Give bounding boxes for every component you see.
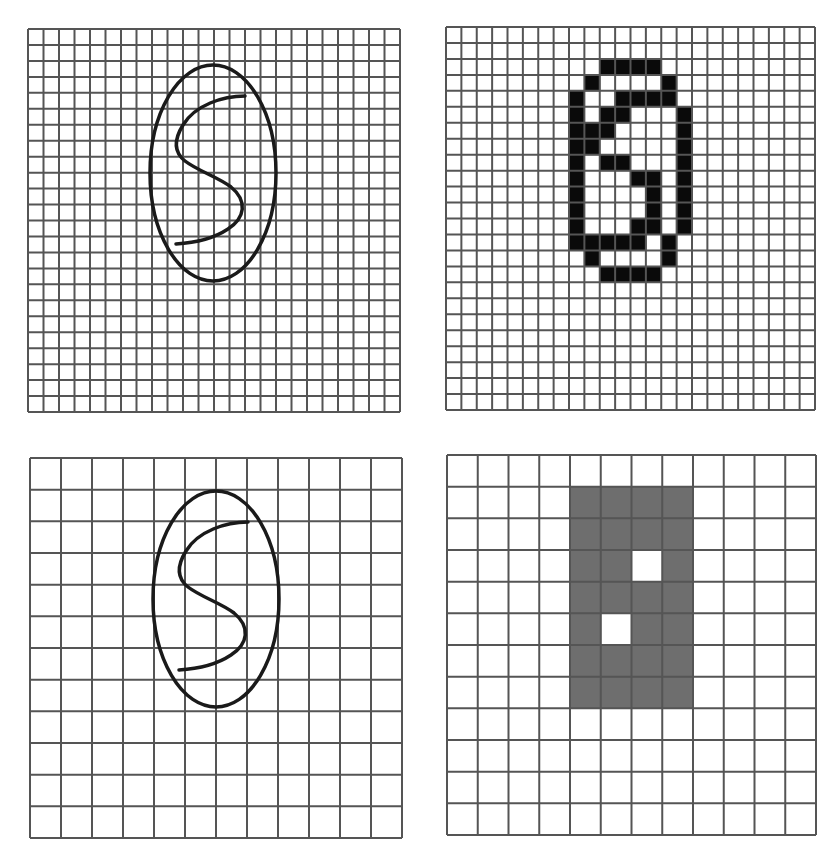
- filled-cell: [600, 155, 616, 171]
- filled-cell: [661, 234, 677, 250]
- filled-cell: [601, 550, 632, 582]
- coarse-grid-digitized-svg: [447, 455, 816, 835]
- filled-cell: [662, 677, 693, 709]
- filled-cell: [631, 219, 647, 235]
- filled-cell: [632, 645, 663, 677]
- filled-cell: [584, 123, 600, 139]
- filled-cell: [632, 677, 663, 709]
- filled-cell: [569, 187, 585, 203]
- filled-cell: [632, 613, 663, 645]
- filled-cell: [631, 59, 647, 75]
- filled-cell: [584, 139, 600, 155]
- filled-cell: [600, 59, 616, 75]
- filled-cell: [677, 155, 693, 171]
- fine-grid-digitized-svg: [446, 27, 815, 410]
- filled-cell: [677, 187, 693, 203]
- filled-cell: [631, 91, 647, 107]
- filled-cell: [662, 487, 693, 519]
- filled-cell: [569, 107, 585, 123]
- filled-cell: [646, 219, 662, 235]
- filled-cell: [631, 266, 647, 282]
- filled-cell: [662, 613, 693, 645]
- filled-cell: [615, 59, 631, 75]
- filled-cell: [662, 550, 693, 582]
- filled-cell: [646, 91, 662, 107]
- filled-cell: [615, 155, 631, 171]
- filled-cell: [569, 155, 585, 171]
- filled-cell: [661, 250, 677, 266]
- filled-cell: [569, 139, 585, 155]
- filled-cell: [677, 203, 693, 219]
- filled-cell: [600, 123, 616, 139]
- filled-cell: [631, 234, 647, 250]
- filled-cell: [677, 107, 693, 123]
- filled-cell: [584, 250, 600, 266]
- filled-cell: [584, 75, 600, 91]
- filled-cell: [677, 171, 693, 187]
- filled-cell: [677, 219, 693, 235]
- filled-cell: [632, 487, 663, 519]
- filled-cell: [661, 75, 677, 91]
- filled-cell: [600, 234, 616, 250]
- grid-lines: [28, 29, 400, 412]
- grid-lines: [446, 27, 815, 410]
- filled-cell: [569, 203, 585, 219]
- filled-cell: [662, 518, 693, 550]
- filled-cell: [601, 487, 632, 519]
- filled-cell: [646, 171, 662, 187]
- filled-cell: [601, 518, 632, 550]
- filled-cell: [600, 107, 616, 123]
- filled-cell: [569, 91, 585, 107]
- filled-cell: [631, 171, 647, 187]
- fine-grid-digitized-panel: [446, 27, 815, 410]
- coarse-grid-handwritten-s-svg: [30, 458, 402, 838]
- filled-cell: [570, 550, 601, 582]
- filled-cell: [570, 613, 601, 645]
- filled-cell: [646, 203, 662, 219]
- filled-cell: [584, 234, 600, 250]
- filled-cell: [646, 187, 662, 203]
- filled-cell: [677, 123, 693, 139]
- filled-cell: [662, 582, 693, 614]
- grid-lines: [30, 458, 402, 838]
- fine-grid-handwritten-s-panel: [28, 29, 400, 412]
- filled-cell: [662, 645, 693, 677]
- filled-cell: [570, 677, 601, 709]
- filled-cell: [615, 91, 631, 107]
- filled-cell: [600, 266, 616, 282]
- coarse-grid-digitized-panel: [447, 455, 816, 835]
- filled-cell: [569, 171, 585, 187]
- coarse-grid-handwritten-s-panel: [30, 458, 402, 838]
- filled-cell: [569, 219, 585, 235]
- filled-cell: [601, 582, 632, 614]
- filled-cell: [646, 266, 662, 282]
- filled-cell: [632, 582, 663, 614]
- fine-grid-handwritten-s-svg: [28, 29, 400, 412]
- filled-cell: [677, 139, 693, 155]
- s-character-stroke: [176, 96, 245, 244]
- filled-cell: [661, 91, 677, 107]
- filled-cell: [570, 645, 601, 677]
- filled-cell: [632, 518, 663, 550]
- grid-lines: [447, 455, 816, 835]
- filled-cell: [615, 234, 631, 250]
- filled-cell: [569, 234, 585, 250]
- filled-cell: [615, 107, 631, 123]
- filled-cell: [570, 518, 601, 550]
- filled-cell: [615, 266, 631, 282]
- filled-cell: [601, 645, 632, 677]
- filled-cell: [601, 677, 632, 709]
- filled-cell: [570, 487, 601, 519]
- filled-cell: [569, 123, 585, 139]
- filled-cell: [570, 582, 601, 614]
- filled-cell: [646, 59, 662, 75]
